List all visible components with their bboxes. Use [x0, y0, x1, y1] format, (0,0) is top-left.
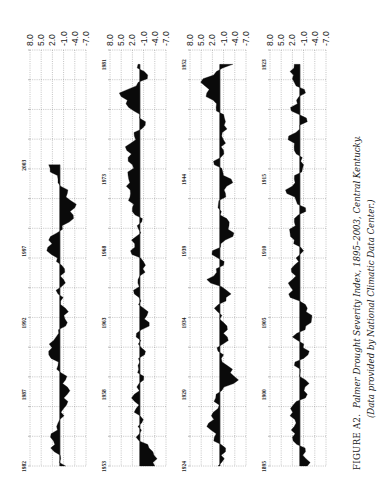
- value-tick-label: -7.0: [241, 31, 251, 46]
- value-tick-label: -7.0: [321, 31, 331, 46]
- value-tick-label: -1.0: [219, 31, 229, 46]
- value-tick-label: 2.0: [47, 34, 57, 46]
- year-label: 1923: [261, 59, 267, 70]
- value-tick-label: -4.0: [230, 31, 240, 46]
- value-tick-label: 2.0: [127, 34, 137, 46]
- chart-panels: 8.05.02.0-1.0-4.0-7.01982198719921997200…: [21, 31, 331, 472]
- year-label: 1905: [261, 317, 267, 328]
- year-label: 1997: [21, 246, 27, 257]
- panel-1924-1952: 8.05.02.0-1.0-4.0-7.01924192919341939194…: [181, 31, 251, 472]
- value-tick-label: 2.0: [207, 34, 217, 46]
- year-label: 1924: [181, 461, 187, 472]
- caption-line-1: FIGURE A2. Palmer Drought Severity Index…: [352, 136, 362, 470]
- year-label: 1939: [181, 246, 187, 257]
- year-label: 1992: [21, 317, 27, 328]
- year-label: 1910: [261, 246, 267, 257]
- value-tick-label: -1.0: [299, 31, 309, 46]
- panel-1895-1923: 8.05.02.0-1.0-4.0-7.01895190019051910191…: [261, 31, 331, 472]
- value-tick-label: -1.0: [59, 31, 69, 46]
- year-label: 1963: [101, 317, 107, 328]
- value-tick-label: 8.0: [185, 34, 195, 46]
- caption-label: FIGURE A2.: [352, 414, 362, 470]
- year-label: 1915: [261, 174, 267, 185]
- year-label: 2003: [21, 160, 27, 171]
- year-label: 1982: [21, 461, 27, 472]
- drought-index-figure: 8.05.02.0-1.0-4.0-7.01982198719921997200…: [0, 0, 392, 493]
- year-label: 1895: [261, 461, 267, 472]
- value-tick-label: 8.0: [105, 34, 115, 46]
- figure-caption: FIGURE A2. Palmer Drought Severity Index…: [352, 136, 376, 470]
- caption-line-2: (Data provided by National Climatic Data…: [366, 199, 376, 418]
- value-tick-label: -7.0: [161, 31, 171, 46]
- value-tick-label: -4.0: [150, 31, 160, 46]
- year-label: 1981: [101, 59, 107, 70]
- year-label: 1973: [101, 174, 107, 185]
- year-label: 1968: [101, 246, 107, 257]
- value-tick-label: 5.0: [196, 34, 206, 46]
- caption-title: Palmer Drought Severity Index, 1895–2003…: [352, 136, 362, 409]
- panel-1982-2003: 8.05.02.0-1.0-4.0-7.01982198719921997200…: [21, 31, 91, 472]
- year-label: 1934: [181, 317, 187, 328]
- value-tick-label: 5.0: [276, 34, 286, 46]
- value-tick-label: 5.0: [36, 34, 46, 46]
- value-tick-label: 5.0: [116, 34, 126, 46]
- year-label: 1944: [181, 174, 187, 185]
- pdsi-area-series: [47, 165, 77, 466]
- pdsi-area-series: [286, 64, 313, 466]
- pdsi-area-series: [119, 64, 157, 466]
- value-tick-label: -1.0: [139, 31, 149, 46]
- year-label: 1900: [261, 389, 267, 400]
- year-label: 1953: [101, 461, 107, 472]
- year-label: 1987: [21, 389, 27, 400]
- value-tick-label: 8.0: [25, 34, 35, 46]
- value-tick-label: 2.0: [287, 34, 297, 46]
- value-tick-label: -4.0: [310, 31, 320, 46]
- value-tick-label: -4.0: [70, 31, 80, 46]
- value-tick-label: -7.0: [81, 31, 91, 46]
- year-label: 1929: [181, 389, 187, 400]
- year-label: 1958: [101, 389, 107, 400]
- value-tick-label: 8.0: [265, 34, 275, 46]
- panel-1953-1981: 8.05.02.0-1.0-4.0-7.01953195819631968197…: [101, 31, 171, 472]
- year-label: 1952: [181, 59, 187, 70]
